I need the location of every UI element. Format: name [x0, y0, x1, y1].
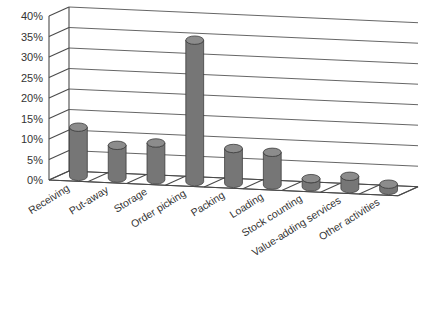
- y-axis-tick-label: 20%: [21, 92, 43, 104]
- bars: [69, 36, 397, 195]
- bar-top: [108, 141, 126, 149]
- axis-tick: [49, 110, 69, 119]
- axis-tick: [49, 48, 69, 57]
- bar-body: [186, 40, 204, 186]
- bar: [380, 180, 398, 195]
- x-axis-tick: [282, 181, 302, 190]
- x-axis-tick: [243, 180, 263, 189]
- gridline: [69, 69, 418, 85]
- bar: [302, 174, 320, 191]
- bar: [108, 141, 126, 182]
- chart-container: 0%5%10%15%20%25%30%35%40%ReceivingPut-aw…: [0, 0, 426, 317]
- y-axis-tick-label: 15%: [21, 113, 43, 125]
- bar: [263, 148, 281, 189]
- axis-tick: [49, 69, 69, 78]
- bar: [341, 172, 359, 193]
- bar: [225, 144, 243, 187]
- y-axis-tick-label: 5%: [27, 154, 43, 166]
- x-axis-tick: [359, 185, 379, 194]
- y-axis-tick-label: 30%: [21, 51, 43, 63]
- bar-top: [380, 180, 398, 188]
- bar-top: [302, 174, 320, 182]
- y-axis-tick-label: 25%: [21, 72, 43, 84]
- bar-body: [108, 145, 126, 182]
- bar-top: [69, 123, 87, 131]
- bar-top: [263, 148, 281, 156]
- y-axis-tick-label: 35%: [21, 31, 43, 43]
- bar-body: [263, 152, 281, 189]
- bar-body: [225, 149, 243, 188]
- axis-tick: [49, 7, 69, 16]
- bar: [186, 36, 204, 186]
- x-axis-tick: [320, 183, 340, 192]
- x-axis-tick: [88, 173, 108, 182]
- y-axis-tick-label: 40%: [21, 10, 43, 22]
- gridline: [69, 7, 418, 23]
- x-axis-end: [398, 187, 418, 196]
- y-axis-labels: 0%5%10%15%20%25%30%35%40%: [21, 10, 43, 186]
- axis-tick: [49, 28, 69, 37]
- axis-tick: [49, 89, 69, 98]
- bar: [147, 139, 165, 184]
- x-axis-tick: [204, 178, 224, 187]
- axis-wall: [49, 7, 69, 180]
- gridline: [69, 48, 418, 64]
- gridline: [69, 110, 418, 126]
- bar-top: [341, 172, 359, 180]
- axis-tick: [49, 151, 69, 160]
- x-axis-category-label: Put-away: [67, 183, 111, 217]
- x-axis-tick: [127, 174, 147, 183]
- axis-tick: [49, 130, 69, 139]
- bar-top: [186, 36, 204, 44]
- x-axis-tick: [165, 176, 185, 185]
- y-axis-tick-label: 10%: [21, 133, 43, 145]
- bar-top: [225, 144, 243, 152]
- x-axis-category-label: Receiving: [26, 181, 72, 216]
- bar-chart: 0%5%10%15%20%25%30%35%40%ReceivingPut-aw…: [0, 0, 426, 317]
- y-axis-tick-label: 0%: [27, 174, 43, 186]
- gridline: [69, 89, 418, 105]
- gridline: [69, 28, 418, 44]
- bar-body: [147, 143, 165, 184]
- bar-body: [69, 127, 87, 180]
- bar-top: [147, 139, 165, 147]
- x-axis-category-label: Packing: [188, 188, 226, 218]
- bar: [69, 123, 87, 181]
